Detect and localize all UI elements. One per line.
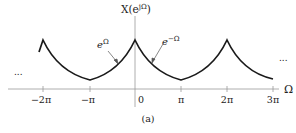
annotation-e-omega: eΩ (97, 38, 109, 50)
figure-caption: (a) (141, 113, 154, 124)
svg-text:3π: 3π (267, 94, 279, 105)
annotation-e-neg-omega: e−Ω (162, 35, 180, 47)
svg-text:−2π: −2π (31, 94, 51, 105)
svg-text:−π: −π (81, 94, 95, 105)
left-ellipsis: ... (14, 67, 23, 77)
annotation-arrows (108, 44, 163, 64)
svg-text:0: 0 (138, 94, 144, 105)
right-ellipsis: ... (279, 53, 288, 63)
svg-text:π: π (178, 94, 184, 105)
svg-text:2π: 2π (221, 94, 233, 105)
x-axis-label: Ω (284, 83, 293, 96)
y-axis-label: X(ejΩ) (121, 3, 151, 15)
periodic-spectrum-diagram: X(ejΩ) eΩ e−Ω ... ... Ω −2π −π 0 π 2π 3π… (0, 0, 296, 133)
spectrum-curve (39, 40, 273, 80)
tick-labels: −2π −π 0 π 2π 3π (31, 94, 279, 105)
